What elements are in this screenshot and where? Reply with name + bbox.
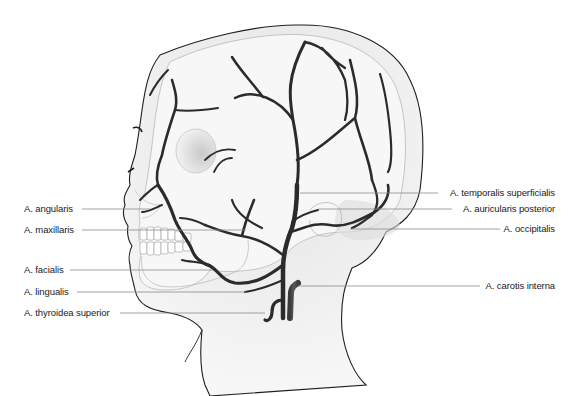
label-a-angularis: A. angularis: [24, 203, 73, 214]
label-a-thyroidea-superior: A. thyroidea superior: [24, 307, 110, 318]
label-a-auricularis-posterior: A. auricularis posterior: [463, 203, 555, 214]
head-artery-illustration: [0, 0, 575, 396]
orbit: [176, 129, 216, 173]
label-a-occipitalis: A. occipitalis: [504, 223, 555, 234]
label-a-temporalis-superficialis: A. temporalis superficialis: [450, 187, 555, 198]
label-a-maxillaris: A. maxillaris: [24, 224, 74, 235]
label-a-lingualis: A. lingualis: [24, 286, 69, 297]
neck-front-line: [185, 330, 202, 362]
label-a-carotis-interna: A. carotis interna: [486, 280, 555, 291]
label-a-facialis: A. facialis: [24, 264, 64, 275]
